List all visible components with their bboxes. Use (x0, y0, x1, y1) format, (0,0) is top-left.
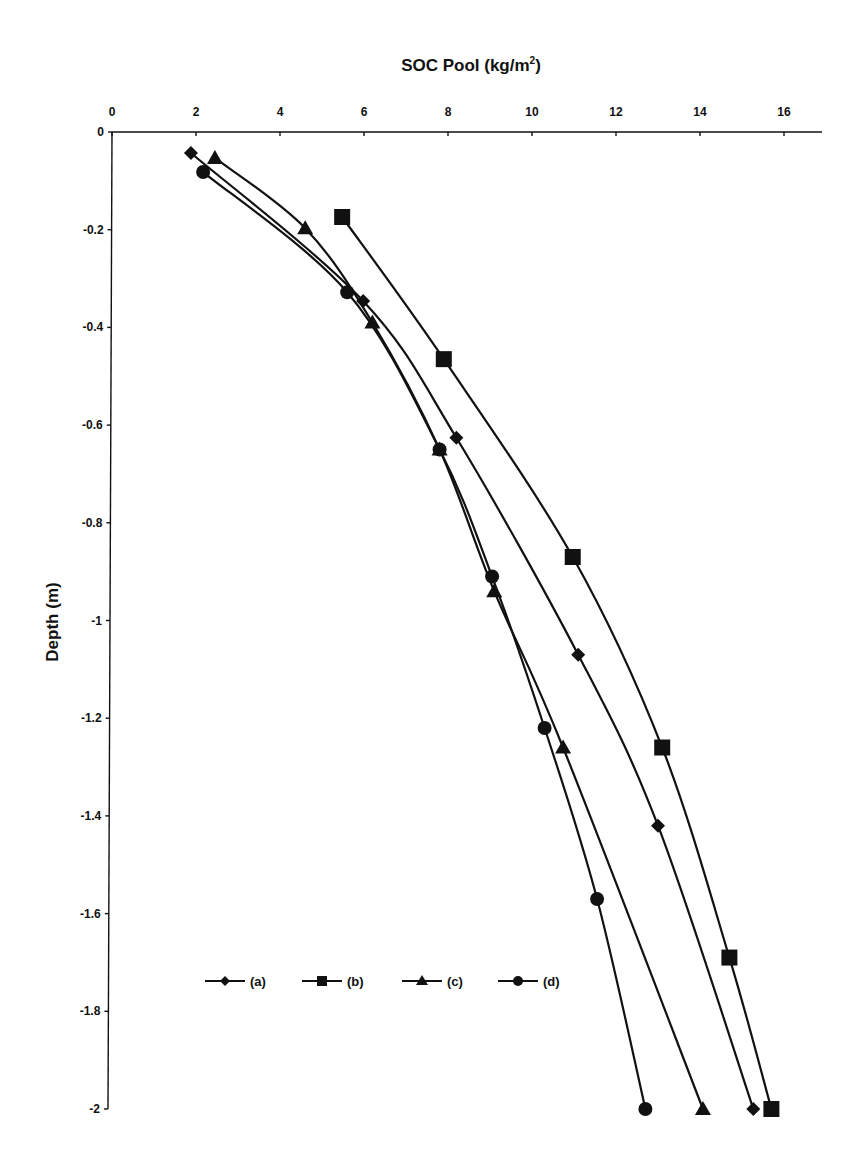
x-tick-label: 10 (525, 105, 539, 119)
y-axis: 0-0.2-0.4-0.6-0.8-1-1.2-1.4-1.6-1.8-2 (80, 125, 112, 1116)
circle-marker (433, 443, 447, 457)
circle-marker (513, 976, 523, 986)
square-marker (721, 950, 737, 966)
x-axis: 0246810121416 (109, 105, 822, 136)
circle-marker (538, 721, 552, 735)
y-tick-label: -0.6 (82, 418, 103, 432)
x-tick-label: 4 (277, 105, 284, 119)
circle-marker (638, 1102, 652, 1116)
legend-label: (d) (543, 974, 560, 989)
circle-marker (485, 570, 499, 584)
square-marker (763, 1101, 779, 1117)
square-marker (654, 740, 670, 756)
x-tick-label: 2 (193, 105, 200, 119)
y-tick-label: -0.2 (83, 223, 104, 237)
series-line (191, 153, 753, 1109)
y-axis-label: Depth (m) (43, 582, 62, 661)
legend-item-c: (c) (402, 974, 463, 989)
legend-item-d: (d) (498, 974, 560, 989)
x-tick-label: 0 (109, 105, 116, 119)
legend-label: (c) (447, 974, 463, 989)
legend-label: (b) (347, 974, 364, 989)
y-tick-label: -2 (89, 1102, 100, 1116)
square-marker (436, 351, 452, 367)
y-tick-label: -1.8 (80, 1004, 101, 1018)
square-marker (565, 549, 581, 565)
legend-item-b: (b) (302, 974, 364, 989)
triangle-marker (695, 1101, 711, 1115)
series-line (203, 172, 645, 1109)
y-tick-label: -0.8 (82, 516, 103, 530)
square-marker (334, 209, 350, 225)
y-tick-label: -1.2 (81, 711, 102, 725)
series-c (207, 150, 711, 1115)
diamond-marker (571, 648, 585, 662)
triangle-marker (207, 150, 223, 164)
circle-marker (590, 892, 604, 906)
triangle-marker (555, 740, 571, 754)
series-line (215, 158, 703, 1109)
y-tick-label: 0 (97, 125, 104, 139)
x-tick-label: 6 (361, 105, 368, 119)
circle-marker (196, 165, 210, 179)
diamond-marker (220, 976, 230, 986)
y-tick-label: -0.4 (83, 320, 104, 334)
y-tick-label: -1.4 (81, 809, 102, 823)
y-tick-label: -1 (91, 614, 102, 628)
x-tick-label: 8 (445, 105, 452, 119)
legend-item-a: (a) (205, 974, 266, 989)
x-tick-label: 16 (777, 105, 791, 119)
diamond-marker (746, 1102, 760, 1116)
circle-marker (340, 285, 354, 299)
legend-label: (a) (250, 974, 266, 989)
y-tick-label: -1.6 (80, 907, 101, 921)
x-tick-label: 12 (609, 105, 623, 119)
chart-title: SOC Pool (kg/m2) (401, 55, 541, 75)
legend: (a)(b)(c)(d) (205, 974, 560, 989)
depth-profile-chart: SOC Pool (kg/m2) Depth (m) 0246810121416… (0, 0, 860, 1171)
x-tick-label: 14 (693, 105, 707, 119)
diamond-marker (651, 819, 665, 833)
square-marker (317, 976, 327, 986)
series-a (184, 146, 760, 1116)
series-group (184, 146, 779, 1117)
diamond-marker (449, 431, 463, 445)
